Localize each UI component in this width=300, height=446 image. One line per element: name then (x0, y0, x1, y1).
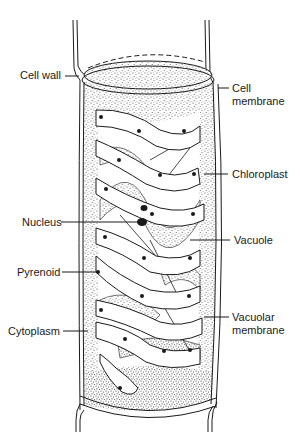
label-nucleus: Nucleus (22, 216, 62, 229)
label-cell-wall: Cell wall (20, 69, 61, 82)
label-chloroplast: Chloroplast (232, 168, 288, 181)
label-cytoplasm: Cytoplasm (8, 325, 60, 338)
label-vacuolar-membrane: Vacuolar membrane (232, 311, 285, 337)
nucleus-upper-shape (141, 205, 148, 211)
label-pyrenoid: Pyrenoid (17, 266, 60, 279)
label-cell-membrane: Cell membrane (232, 82, 285, 108)
top-end-wall (84, 61, 212, 89)
label-vacuole: Vacuole (234, 234, 273, 247)
